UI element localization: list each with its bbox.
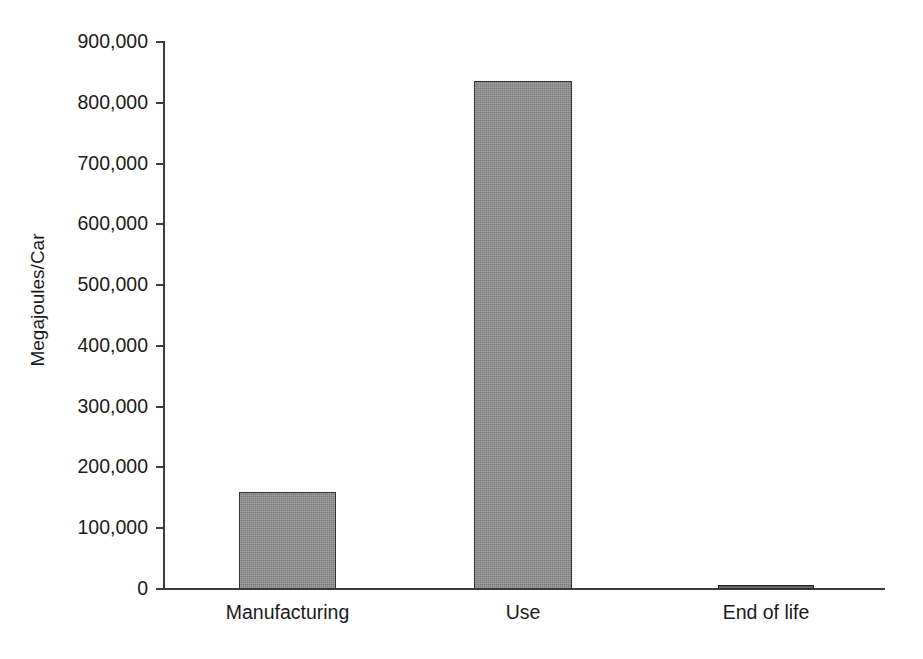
y-axis-tick-label-wrap: 400,000	[0, 336, 148, 356]
y-axis-tick-label: 800,000	[78, 93, 149, 113]
x-axis-label-use: Use	[413, 600, 633, 624]
y-axis-tick-label: 200,000	[78, 457, 149, 477]
y-axis-tick-label-wrap: 100,000	[0, 518, 148, 538]
y-axis-tick-label: 100,000	[78, 518, 149, 538]
y-axis-tick-label-wrap: 700,000	[0, 154, 148, 174]
y-axis-tick-label-wrap: 600,000	[0, 214, 148, 234]
bar-manufacturing	[239, 492, 336, 589]
y-axis-line	[163, 41, 165, 590]
y-axis-tick-label: 300,000	[78, 397, 149, 417]
y-axis-tick-label: 900,000	[78, 32, 149, 52]
y-axis-tick-label: 500,000	[78, 275, 149, 295]
x-axis-label-end-of-life: End of life	[656, 600, 876, 624]
y-axis-tick-label: 0	[137, 579, 148, 599]
bar-use	[474, 81, 572, 589]
y-axis-tick-label: 600,000	[78, 214, 149, 234]
y-axis-tick-label-wrap: 0	[0, 579, 148, 599]
bar-end-of-life	[718, 585, 814, 589]
y-axis-tick-label-wrap: 900,000	[0, 32, 148, 52]
y-axis-tick-label-wrap: 500,000	[0, 275, 148, 295]
y-axis-tick-label: 700,000	[78, 154, 149, 174]
y-axis-tick-label-wrap: 200,000	[0, 457, 148, 477]
y-axis-tick-label-wrap: 300,000	[0, 397, 148, 417]
x-axis-label-manufacturing: Manufacturing	[178, 600, 398, 624]
bar-chart: Megajoules/Car 0100,000200,000300,000400…	[0, 0, 923, 659]
y-axis-tick-label: 400,000	[78, 336, 149, 356]
y-axis-tick-label-wrap: 800,000	[0, 93, 148, 113]
